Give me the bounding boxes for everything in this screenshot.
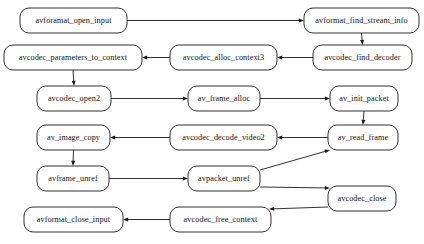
edge-avframe_unref-to-avpacket_unref (109, 177, 188, 181)
node-label: av_image_copy (47, 133, 101, 142)
arrowhead-icon (110, 136, 115, 140)
node-label: av_init_packet (339, 94, 389, 103)
arrowhead-icon (71, 161, 75, 166)
node-avcodec_open2[interactable]: avcodec_open2 (37, 86, 111, 111)
arrowhead-icon (183, 177, 188, 181)
node-avcodec_parameters_to_context[interactable]: avcodec_parameters_to_context (4, 45, 142, 70)
arrowhead-icon (299, 19, 304, 23)
node-label: avformat_find_stream_info (315, 16, 408, 25)
arrowhead-icon (277, 136, 282, 140)
diagram-root: avforamat_open_inputavformat_find_stream… (0, 0, 424, 244)
node-label: avcodec_decode_video2 (182, 133, 265, 142)
node-label: avcodec_alloc_context3 (183, 53, 264, 62)
node-avcodec_decode_video2[interactable]: avcodec_decode_video2 (170, 125, 277, 150)
arrowhead-icon (277, 56, 282, 60)
node-label: avcodec_free_context (184, 215, 258, 224)
edge-avcodec_free_context-to-avformat_close_input (123, 218, 170, 222)
flowchart-canvas: avforamat_open_inputavformat_find_stream… (0, 0, 424, 244)
node-avcodec_close[interactable]: avcodec_close (328, 186, 396, 211)
node-label: avcodec_open2 (48, 94, 100, 103)
arrowhead-icon (142, 56, 147, 60)
edge-line (73, 70, 74, 82)
node-label: avcodec_parameters_to_context (19, 53, 128, 62)
edge-av_image_copy-to-avframe_unref (71, 150, 75, 166)
edge-av_read_frame-to-avcodec_decode_video2 (277, 136, 328, 140)
arrowhead-icon (325, 97, 330, 101)
arrowhead-icon (360, 40, 364, 45)
node-av_init_packet[interactable]: av_init_packet (330, 86, 398, 111)
node-label: avforamat_open_input (35, 16, 112, 25)
edge-av_frame_alloc-to-av_init_packet (260, 97, 330, 101)
arrowhead-icon (72, 81, 76, 86)
node-av_frame_alloc[interactable]: av_frame_alloc (188, 86, 260, 111)
node-avpacket_unref[interactable]: avpacket_unref (188, 166, 260, 191)
edge-avpacket_unref-to-av_read_frame (260, 150, 330, 170)
edge-avcodec_close-to-avcodec_free_context (269, 207, 328, 211)
node-avcodec_free_context[interactable]: avcodec_free_context (170, 207, 271, 232)
edge-line (362, 33, 363, 41)
edge-avpacket_unref-to-avcodec_close (260, 186, 330, 190)
arrowhead-icon (325, 186, 330, 190)
node-label: av_frame_alloc (198, 94, 251, 103)
edge-avcodec_parameters_to_context-to-avcodec_open2 (72, 70, 76, 86)
edge-avcodec_decode_video2-to-av_image_copy (110, 136, 170, 140)
edge-avcodec_open2-to-av_frame_alloc (111, 97, 188, 101)
node-avformat_close_input[interactable]: avformat_close_input (24, 207, 123, 232)
edge-avcodec_alloc_context3-to-avcodec_parameters_to_context (142, 56, 170, 60)
node-label: avpacket_unref (198, 174, 250, 183)
edge-line (260, 151, 326, 170)
edge-avcodec_find_decoder-to-avcodec_alloc_context3 (277, 56, 313, 60)
arrowhead-icon (183, 97, 188, 101)
node-label: avframe_unref (48, 174, 98, 183)
node-av_read_frame[interactable]: av_read_frame (328, 125, 398, 150)
arrowhead-icon (123, 218, 128, 222)
node-label: avformat_close_input (37, 215, 111, 224)
node-av_image_copy[interactable]: av_image_copy (37, 125, 110, 150)
node-avcodec_find_decoder[interactable]: avcodec_find_decoder (313, 45, 412, 70)
arrowhead-icon (269, 207, 274, 211)
node-label: avcodec_close (337, 194, 386, 203)
node-avforamat_open_input[interactable]: avforamat_open_input (20, 8, 127, 33)
node-avformat_find_stream_info[interactable]: avformat_find_stream_info (304, 8, 419, 33)
node-avframe_unref[interactable]: avframe_unref (37, 166, 109, 191)
edge-av_init_packet-to-av_read_frame (361, 111, 365, 125)
arrowhead-icon (324, 150, 330, 154)
node-label: av_read_frame (338, 133, 389, 142)
edge-line (273, 207, 328, 209)
edge-line (260, 187, 326, 188)
node-layer: avforamat_open_inputavformat_find_stream… (4, 8, 419, 232)
node-avcodec_alloc_context3[interactable]: avcodec_alloc_context3 (170, 45, 277, 70)
node-label: avcodec_find_decoder (324, 53, 400, 62)
arrowhead-icon (361, 120, 365, 125)
edge-line (363, 111, 364, 121)
edge-avformat_find_stream_info-to-avcodec_find_decoder (360, 33, 364, 45)
edge-avforamat_open_input-to-avformat_find_stream_info (127, 19, 304, 23)
